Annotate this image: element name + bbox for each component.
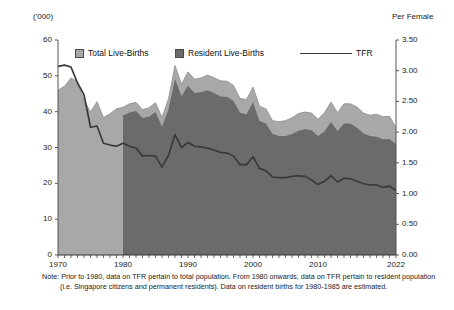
right-axis-tick-1.50: 1.50 (402, 158, 430, 167)
live-births-tfr-chart: ('000) Per Female Total Live-Births Resi… (0, 0, 454, 310)
x-axis-tick-1990: 1990 (171, 260, 205, 269)
left-axis-tick-40: 40 (30, 107, 52, 116)
left-axis-tick-20: 20 (30, 178, 52, 187)
x-axis-tick-2022: 2022 (379, 260, 413, 269)
footnote-text: Prior to 1980, data on TFR pertain to to… (60, 272, 435, 291)
right-axis-tick-2.50: 2.50 (402, 96, 430, 105)
left-axis-tick-50: 50 (30, 71, 52, 80)
x-axis-tick-2000: 2000 (236, 260, 270, 269)
chart-footnote: Note: Prior to 1980, data on TFR pertain… (42, 272, 442, 293)
left-axis-tick-10: 10 (30, 214, 52, 223)
x-axis-tick-1980: 1980 (106, 260, 140, 269)
left-axis-tick-0: 0 (30, 250, 52, 259)
left-axis-tick-60: 60 (30, 35, 52, 44)
footnote-prefix: Note: (42, 272, 59, 281)
x-axis-tick-2010: 2010 (301, 260, 335, 269)
right-axis-tick-0.00: 0.00 (402, 250, 430, 259)
left-axis-tick-30: 30 (30, 143, 52, 152)
right-axis-tick-3.00: 3.00 (402, 66, 430, 75)
right-axis-tick-1.00: 1.00 (402, 189, 430, 198)
right-axis-tick-2.00: 2.00 (402, 127, 430, 136)
right-axis-tick-3.50: 3.50 (402, 35, 430, 44)
x-axis-tick-1970: 1970 (41, 260, 75, 269)
right-axis-tick-0.50: 0.50 (402, 219, 430, 228)
